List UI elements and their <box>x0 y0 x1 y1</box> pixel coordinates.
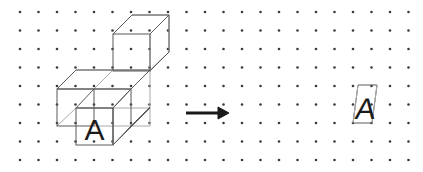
grid-dot <box>333 140 336 143</box>
grid-dot <box>56 85 59 88</box>
grid-dot <box>204 140 207 143</box>
grid-dot <box>56 29 59 32</box>
back-edge-lower-left <box>57 108 76 126</box>
grid-dot <box>93 66 96 69</box>
grid-dot <box>37 122 40 125</box>
grid-dot <box>370 11 373 14</box>
grid-dot <box>222 29 225 32</box>
grid-dot <box>74 11 77 14</box>
upper-cube-right-face <box>150 15 169 71</box>
grid-dot <box>315 122 318 125</box>
grid-dot <box>352 159 355 162</box>
grid-dot <box>56 159 59 162</box>
grid-dot <box>93 11 96 14</box>
grid-dot <box>130 66 133 69</box>
upper-cube-top-face <box>113 15 169 34</box>
grid-dot <box>130 85 133 88</box>
grid-dot <box>333 122 336 125</box>
grid-dot <box>167 122 170 125</box>
grid-dot <box>296 103 299 106</box>
grid-dot <box>185 122 188 125</box>
grid-dot <box>315 66 318 69</box>
grid-dot <box>19 11 22 14</box>
grid-dot <box>222 11 225 14</box>
grid-dot <box>315 11 318 14</box>
grid-dot <box>407 29 410 32</box>
diagram-svg: A A <box>0 0 423 172</box>
grid-dot <box>241 66 244 69</box>
grid-dot <box>241 85 244 88</box>
grid-dot <box>204 85 207 88</box>
grid-dot <box>278 103 281 106</box>
grid-dot <box>407 159 410 162</box>
grid-dot <box>278 85 281 88</box>
grid-dot <box>222 66 225 69</box>
grid-dot <box>315 48 318 51</box>
grid-dot <box>222 159 225 162</box>
grid-dot <box>19 122 22 125</box>
grid-dot <box>259 11 262 14</box>
grid-dot <box>222 85 225 88</box>
grid-dot <box>167 66 170 69</box>
grid-dot <box>407 48 410 51</box>
grid-dot <box>37 48 40 51</box>
grid-dot <box>56 48 59 51</box>
grid-dot <box>296 66 299 69</box>
grid-dot <box>185 66 188 69</box>
grid-dot <box>259 85 262 88</box>
parallelogram-label-a: A <box>353 92 379 125</box>
grid-dot <box>74 159 77 162</box>
grid-dot <box>407 66 410 69</box>
grid-dot <box>130 48 133 51</box>
grid-dot <box>148 11 151 14</box>
grid-dot <box>333 11 336 14</box>
grid-dot <box>19 85 22 88</box>
transformation-arrow <box>186 107 229 119</box>
grid-dot <box>296 29 299 32</box>
grid-dot <box>93 159 96 162</box>
grid-dot <box>389 85 392 88</box>
grid-dot <box>167 140 170 143</box>
grid-dot <box>111 159 114 162</box>
grid-dot <box>333 103 336 106</box>
grid-dot <box>185 11 188 14</box>
grid-dot <box>389 11 392 14</box>
grid-dot <box>204 29 207 32</box>
grid-dot <box>259 159 262 162</box>
grid-dot <box>204 103 207 106</box>
grid-dot <box>241 11 244 14</box>
grid-dot <box>204 66 207 69</box>
grid-dot <box>37 11 40 14</box>
grid-dot <box>352 140 355 143</box>
grid-dot <box>19 103 22 106</box>
grid-dot <box>185 48 188 51</box>
grid-dot <box>37 85 40 88</box>
grid-dot <box>111 103 114 106</box>
grid-dot <box>333 29 336 32</box>
grid-dot <box>370 29 373 32</box>
grid-dot <box>74 103 77 106</box>
grid-dot <box>333 85 336 88</box>
grid-dot <box>296 48 299 51</box>
face-label-a: A <box>84 113 104 146</box>
grid-dot <box>315 85 318 88</box>
lower-step-top-face <box>76 89 131 108</box>
grid-dot <box>241 122 244 125</box>
grid-dot <box>315 140 318 143</box>
grid-dot <box>37 29 40 32</box>
grid-dot <box>37 140 40 143</box>
grid-dot <box>148 29 151 32</box>
grid-dot <box>352 29 355 32</box>
grid-dot <box>407 122 410 125</box>
upper-cube-front-face <box>113 34 150 71</box>
grid-dot <box>259 122 262 125</box>
grid-dot <box>370 159 373 162</box>
arrow-head <box>218 107 229 119</box>
grid-dot <box>389 29 392 32</box>
grid-dot <box>167 103 170 106</box>
grid-dot <box>241 159 244 162</box>
grid-dot <box>296 140 299 143</box>
grid-dot <box>19 48 22 51</box>
grid-dot <box>37 159 40 162</box>
grid-dot <box>278 140 281 143</box>
